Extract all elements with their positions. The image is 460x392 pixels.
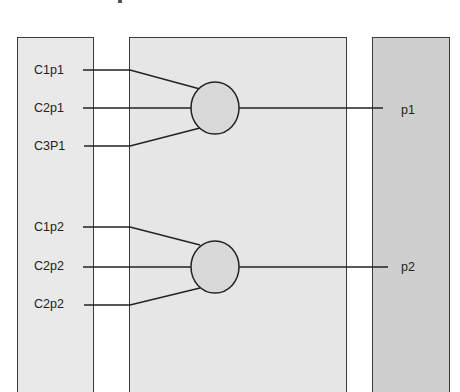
input-label-c1p2: C1p2 [34,220,64,234]
output-label-p1: p1 [401,103,415,117]
input-label-c2p1: C2p1 [34,101,64,115]
connector-c1p2 [83,227,200,245]
input-label-c1p1: C1p1 [34,63,64,77]
input-label-c3p1: C3P1 [34,139,65,153]
input-label-c2p2-second: C2p2 [34,297,64,311]
diagram-canvas: C1p1 C2p1 C3P1 C1p2 C2p2 C2p2 p1 p2 [0,0,460,392]
merge-node-p1 [191,82,239,134]
connector-lines [0,0,460,392]
merge-node-p2 [191,241,239,293]
input-label-c2p2: C2p2 [34,259,64,273]
connector-c3p1 [84,128,200,146]
output-label-p2: p2 [401,260,415,274]
connector-c2p2-b [84,288,200,305]
connector-c1p1 [83,70,200,89]
